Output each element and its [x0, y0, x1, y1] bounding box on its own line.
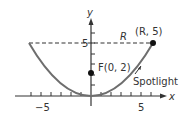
- x-axis-arrow-icon: [160, 94, 167, 99]
- y-axis-arrow-icon: [89, 18, 94, 25]
- x-axis-label: x: [168, 91, 175, 102]
- focus-label: F(0, 2): [98, 62, 131, 73]
- focus-point: [88, 70, 94, 76]
- y-tick-label-5: 5: [82, 38, 88, 49]
- parabola-diagram: y x 5 −5 5 R (R, 5) F(0, 2) Spotlight: [0, 0, 183, 119]
- radius-label: R: [120, 31, 127, 42]
- y-axis-label: y: [86, 7, 94, 18]
- point-r5: [150, 40, 156, 46]
- x-tick-label-5: 5: [138, 102, 144, 113]
- x-tick-label-neg5: −5: [35, 102, 50, 113]
- spotlight-label: Spotlight: [133, 76, 178, 87]
- point-r5-label: (R, 5): [135, 26, 163, 37]
